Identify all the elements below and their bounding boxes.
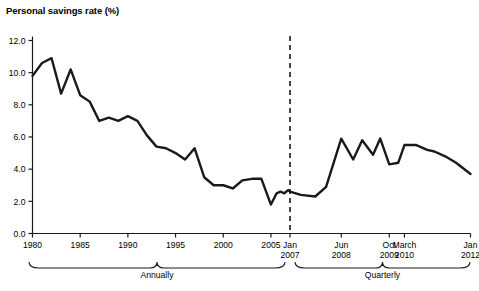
y-axis-tick-label: 2.0	[14, 197, 26, 207]
x-axis-tick-sublabel: 2010	[395, 250, 414, 260]
x-axis-tick-label: 2005	[261, 240, 280, 250]
series-line-personal-savings-rate	[33, 58, 471, 204]
x-axis-tick-label: 1985	[71, 240, 90, 250]
x-axis-tick-label: 1995	[166, 240, 185, 250]
x-axis-tick-label: 2000	[214, 240, 233, 250]
y-axis-tick-label: 8.0	[14, 100, 26, 110]
x-axis-tick-label: Jun	[334, 240, 348, 250]
quarterly-brace-label: Quarterly	[365, 270, 401, 280]
x-axis-tick-sublabel: 2007	[280, 250, 299, 260]
period-braces: AnnuallyQuarterly	[29, 262, 470, 280]
data-series-line	[33, 58, 471, 204]
chart-plot-svg: 0.02.04.06.08.010.012.0 1980198519901995…	[0, 0, 479, 291]
annually-brace-label: Annually	[141, 270, 175, 280]
x-axis-tick-label: March	[392, 240, 416, 250]
y-axis-tick-label: 6.0	[14, 132, 26, 142]
quarterly-brace-path	[295, 262, 470, 268]
y-axis-tick-label: 10.0	[9, 68, 26, 78]
x-axis-tick-label: 1980	[23, 240, 42, 250]
x-axis-tick-sublabel: 2012	[461, 250, 479, 260]
y-axis-tick-label: 4.0	[14, 164, 26, 174]
y-axis-tick-label: 12.0	[9, 36, 26, 46]
y-axis-tick-label: 0.0	[14, 229, 26, 239]
x-axis-tick-label: Jan	[283, 240, 297, 250]
y-axis: 0.02.04.06.08.010.012.0	[9, 36, 33, 239]
annually-brace-path	[29, 262, 285, 268]
chart-container: Personal savings rate (%) 0.02.04.06.08.…	[0, 0, 479, 291]
x-axis-tick-label: Jan	[464, 240, 478, 250]
x-axis-tick-label: 1990	[118, 240, 137, 250]
x-axis: 198019851990199520002005Jan2007Jun2008Oc…	[23, 234, 479, 260]
x-axis-tick-sublabel: 2008	[332, 250, 351, 260]
